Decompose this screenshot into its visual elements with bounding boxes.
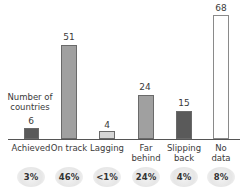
category-text: Lagging [85,143,129,153]
bar-lagging [99,131,115,139]
category-label-no-data: No data [199,143,243,163]
y-axis-label: Number of countries [4,92,56,112]
bar-no-data [213,15,229,139]
bar-chart: Number of countries 6 51 4 24 15 68 Achi… [0,0,246,191]
value-label-no-data: 68 [206,3,236,13]
value-label-on-track: 51 [54,32,84,42]
percentage-badge-achieved: 3% [17,167,45,187]
y-axis-label-line1: Number of [4,92,56,102]
category-label-lagging: Lagging [85,143,129,153]
percentage-badge-no-data: 8% [207,167,235,187]
percentage-badge-far-behind: 24% [132,167,160,187]
percentage-badge-on-track: 46% [55,167,83,187]
bar-slipping-back [176,111,192,139]
bar-achieved [24,128,39,139]
y-axis-label-line2: countries [4,102,56,112]
percentage-badge-lagging: <1% [93,167,121,187]
percentage-badge-slipping-back: 4% [170,167,198,187]
category-text-line1: No [199,143,243,153]
value-label-far-behind: 24 [130,82,160,92]
x-axis-line [8,139,240,140]
value-label-slipping-back: 15 [169,98,199,108]
bar-on-track [61,45,77,139]
category-text-line2: data [199,153,243,163]
value-label-lagging: 4 [92,120,122,130]
bar-far-behind [138,95,154,139]
value-label-achieved: 6 [16,116,46,126]
